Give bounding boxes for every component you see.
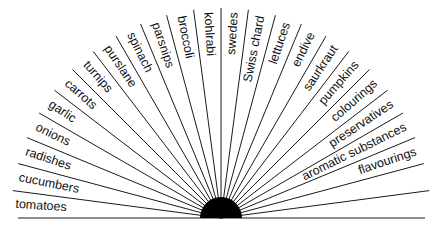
sector-label: Swiss chard (240, 14, 267, 83)
sector-label: swedes (224, 12, 241, 55)
sector-label: radishes (24, 145, 73, 173)
hub-half-disc (200, 197, 242, 218)
ray-line (73, 70, 222, 219)
ray-line (221, 70, 370, 219)
sector-label: broccoli (175, 14, 197, 59)
sector-label: garlic (46, 97, 79, 125)
sector-label: lettuces (266, 20, 293, 65)
fan-diagram-canvas: tomatoescucumbersradishesonionsgarliccar… (0, 0, 443, 229)
sector-label: endive (289, 30, 318, 69)
sector-label: tomatoes (15, 197, 67, 214)
sector-label: kohlrabi (201, 12, 218, 57)
ray-line (221, 138, 415, 218)
sector-label: onions (33, 120, 72, 149)
ray-line (221, 191, 429, 218)
fan-diagram: tomatoescucumbersradishesonionsgarliccar… (0, 0, 443, 229)
